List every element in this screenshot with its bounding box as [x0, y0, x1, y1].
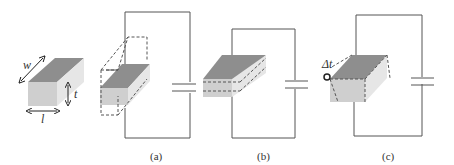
- panel-c: Δt (c): [321, 15, 434, 163]
- thickness-label: t: [74, 87, 78, 101]
- panel-b: (b): [203, 29, 308, 163]
- panel-a: (a): [100, 12, 196, 163]
- length-label: l: [41, 112, 45, 126]
- delta-marker-icon: [324, 74, 330, 80]
- delta-t-label: Δt: [321, 57, 333, 71]
- panel-label-b: (b): [257, 150, 270, 163]
- reference-block: w t l: [21, 58, 84, 126]
- width-label: w: [23, 58, 31, 72]
- panel-label-c: (c): [382, 150, 395, 163]
- panel-label-a: (a): [150, 150, 163, 163]
- figure-canvas: w t l (a) (b): [0, 0, 454, 165]
